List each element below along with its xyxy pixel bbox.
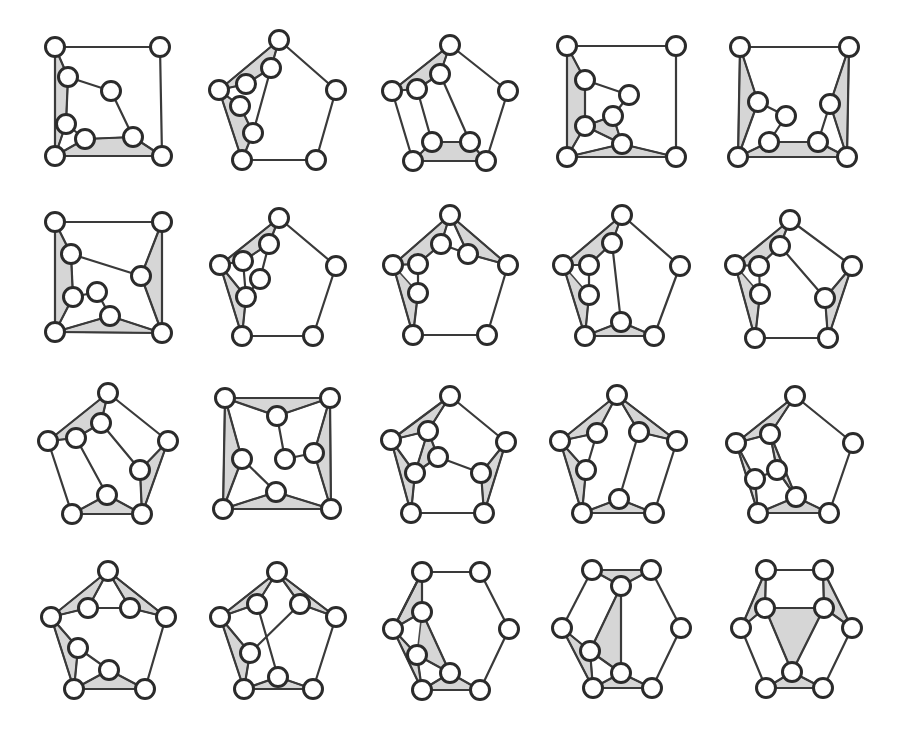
graph-node <box>88 283 107 302</box>
graph-node <box>667 148 686 167</box>
graph-node <box>211 608 230 627</box>
graph-node <box>820 504 839 523</box>
graph-node <box>814 679 833 698</box>
graph-node <box>153 147 172 166</box>
graph-node <box>838 148 857 167</box>
graph-node <box>214 500 233 519</box>
graph-node <box>42 608 61 627</box>
graph-node <box>746 329 765 348</box>
graph-edge <box>654 266 680 336</box>
graph-node <box>583 561 602 580</box>
graph-node <box>844 434 863 453</box>
graph-17 <box>211 563 346 699</box>
graph-edge <box>829 443 853 513</box>
graph-node <box>771 237 790 256</box>
graph-node <box>441 387 460 406</box>
graph-9 <box>554 206 690 346</box>
graph-node <box>291 595 310 614</box>
graph-node <box>269 668 288 687</box>
graph-node <box>327 81 346 100</box>
graph-node <box>46 213 65 232</box>
graph-node <box>558 148 577 167</box>
graph-node <box>746 470 765 489</box>
graph-node <box>768 461 787 480</box>
graph-node <box>756 599 775 618</box>
graph-node <box>262 59 281 78</box>
graph-node <box>69 639 88 658</box>
graph-edge <box>55 332 162 333</box>
graph-node <box>39 432 58 451</box>
graph-node <box>668 432 687 451</box>
graph-node <box>671 257 690 276</box>
graph-node <box>327 257 346 276</box>
graph-node <box>726 256 745 275</box>
graph-node <box>231 97 250 116</box>
graph-node <box>235 680 254 699</box>
graph-node <box>667 37 686 56</box>
graph-4 <box>558 37 686 167</box>
graph-node <box>305 444 324 463</box>
graph-node <box>475 504 494 523</box>
graph-node <box>580 256 599 275</box>
graph-node <box>815 599 834 618</box>
graph-node <box>441 664 460 683</box>
graph-node <box>159 432 178 451</box>
graph-node <box>630 423 649 442</box>
graph-node <box>121 599 140 618</box>
graph-edge <box>71 254 141 276</box>
graph-node <box>558 37 577 56</box>
graph-node <box>612 664 631 683</box>
graph-node <box>750 257 769 276</box>
graph-node <box>131 461 150 480</box>
graph-node <box>413 681 432 700</box>
graph-node <box>581 642 600 661</box>
graph-node <box>432 235 451 254</box>
graph-node <box>819 329 838 348</box>
graph-node <box>477 152 496 171</box>
graph-node <box>814 561 833 580</box>
graph-edge <box>313 617 336 689</box>
graph-8 <box>384 206 518 345</box>
graph-node <box>809 133 828 152</box>
graph-node <box>732 619 751 638</box>
graph-node <box>321 389 340 408</box>
graph-node <box>63 505 82 524</box>
graph-3 <box>383 36 518 171</box>
graph-node <box>210 81 229 100</box>
graph-node <box>643 679 662 698</box>
graph-node <box>821 95 840 114</box>
graph-edge <box>257 604 278 677</box>
graph-node <box>270 209 289 228</box>
graph-node <box>244 124 263 143</box>
graph-node <box>136 680 155 699</box>
graph-node <box>500 620 519 639</box>
graph-node <box>248 595 267 614</box>
graph-node <box>76 130 95 149</box>
graph-node <box>237 288 256 307</box>
graph-node <box>233 450 252 469</box>
graph-node <box>46 38 65 57</box>
graph-node <box>237 75 256 94</box>
graph-node <box>781 211 800 230</box>
graph-node <box>603 234 622 253</box>
graph-node <box>211 256 230 275</box>
graph-node <box>577 461 596 480</box>
graph-grid-diagram <box>0 0 905 737</box>
graph-node <box>153 324 172 343</box>
graph-node <box>92 414 111 433</box>
graph-node <box>441 206 460 225</box>
graph-edge <box>160 47 162 156</box>
graph-edge <box>654 441 677 513</box>
graph-node <box>304 327 323 346</box>
graph-node <box>478 326 497 345</box>
graph-node <box>322 500 341 519</box>
graph-node <box>101 307 120 326</box>
graph-node <box>270 31 289 50</box>
graph-node <box>551 432 570 451</box>
graph-node <box>613 206 632 225</box>
graph-node <box>749 504 768 523</box>
graph-node <box>431 65 450 84</box>
graph-node <box>46 147 65 166</box>
graph-7 <box>211 209 346 346</box>
graph-node <box>307 151 326 170</box>
